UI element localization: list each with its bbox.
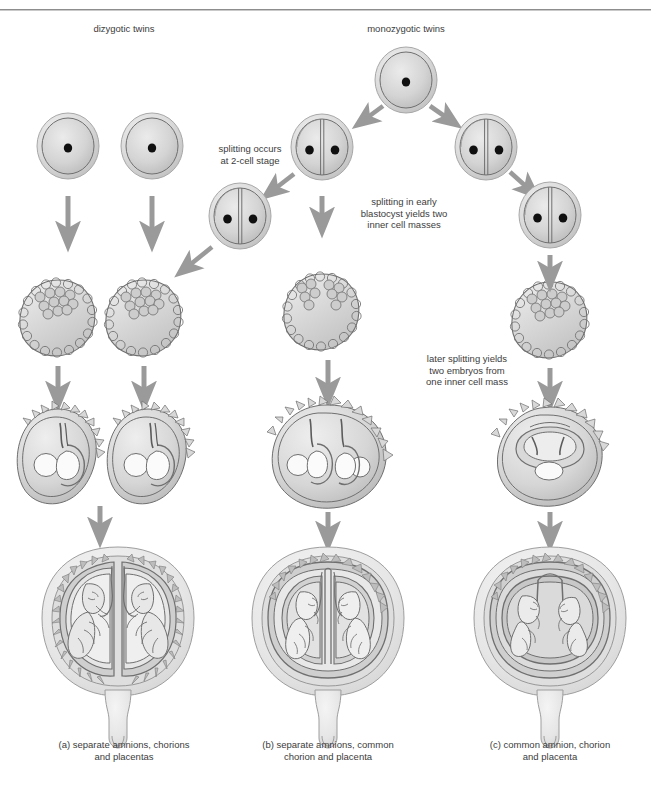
two-cell-split-stage [209, 183, 271, 249]
implantation-mz-common-chorion [267, 396, 393, 508]
label-dizygotic-twins: dizygotic twins [93, 23, 154, 34]
arrow-2cell-split [272, 174, 294, 191]
implantation-dz-left [17, 401, 105, 504]
blastocyst-two-icm [282, 272, 361, 351]
annotation-splitting-2cell: splitting occursat 2-cell stage [219, 143, 282, 166]
annotation-later-splitting: later splitting yieldstwo embryos fromon… [426, 353, 508, 387]
uterus-common-all [474, 547, 626, 748]
caption-a: (a) separate amnions, chorionsand placen… [59, 739, 190, 762]
arrow-mz-split-left [364, 106, 383, 120]
diagram-canvas: dizygotic twins monozygotic twins splitt… [0, 0, 651, 799]
dizygotic-zygote-left [37, 113, 99, 179]
annotation-splitting-blastocyst: splitting in earlyblastocyst yields twoi… [361, 196, 448, 230]
uterus-common-chorion [252, 547, 404, 748]
caption-b: (b) separate amnions, commonchorion and … [262, 739, 393, 762]
arrow-split-to-blastocysts [186, 247, 212, 268]
blastocyst-dz-right [104, 278, 183, 357]
label-monozygotic-twins: monozygotic twins [367, 23, 445, 34]
two-cell-stage-middle [291, 114, 353, 180]
arrow-mz-right-down [510, 172, 530, 190]
blastocyst-dz-left [18, 278, 97, 357]
implantation-dz-right [107, 401, 195, 504]
dizygotic-zygote-right [121, 113, 183, 179]
uterus-separate-all [42, 547, 194, 748]
monozygotic-zygote [375, 47, 437, 113]
two-cell-stage-right [455, 114, 517, 180]
two-cell-stage-right-lower [519, 182, 581, 248]
blastocyst-mz-right [510, 280, 589, 359]
twin-development-figure: dizygotic twins monozygotic twins splitt… [0, 0, 651, 799]
caption-c: (c) common amnion, chorionand placenta [490, 739, 610, 762]
arrow-mz-split-right [430, 106, 450, 120]
implantation-mz-common-amnion [491, 398, 609, 506]
